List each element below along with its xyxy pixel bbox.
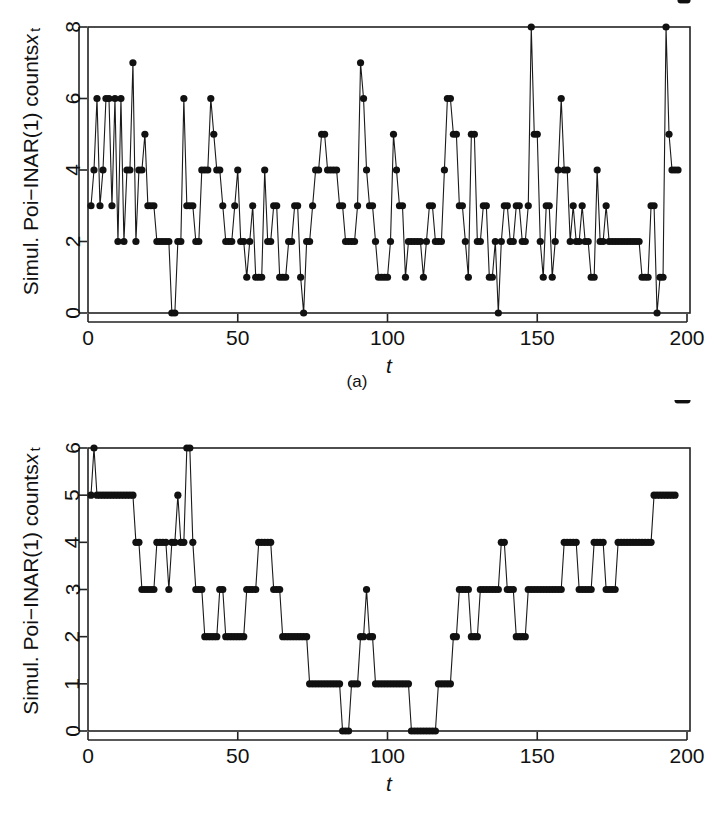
data-point (276, 586, 283, 593)
data-point (579, 202, 586, 209)
data-point (258, 274, 265, 281)
y-axis-title-text: Simul. Poi−INAR(1) counts (19, 464, 42, 714)
data-point (588, 586, 595, 593)
x-tick-label-0: 0 (82, 744, 94, 767)
x-tick-label-150: 150 (520, 326, 555, 349)
chart-panel-a: 02468050100150200tSimul. Poi−INAR(1) cou… (0, 0, 714, 400)
data-point (150, 586, 157, 593)
data-point (141, 131, 148, 138)
data-point (345, 727, 352, 734)
data-point (219, 586, 226, 593)
data-point (441, 166, 448, 173)
data-point (384, 274, 391, 281)
data-point (186, 444, 193, 451)
data-point (90, 166, 97, 173)
y-axis-title-var: x (19, 452, 42, 465)
data-point (558, 95, 565, 102)
data-point (399, 202, 406, 209)
data-point (246, 238, 253, 245)
data-point (459, 202, 466, 209)
data-point (336, 680, 343, 687)
data-point (198, 586, 205, 593)
data-point (120, 238, 127, 245)
data-point (165, 238, 172, 245)
data-point (180, 95, 187, 102)
data-point (129, 59, 136, 66)
data-point (549, 274, 556, 281)
data-point (552, 238, 559, 245)
data-point (489, 274, 496, 281)
data-point (228, 238, 235, 245)
y-tick-label-0: 0 (61, 725, 84, 737)
data-point (432, 727, 439, 734)
data-point (420, 274, 427, 281)
x-tick-label-150: 150 (520, 744, 555, 767)
data-point (129, 492, 136, 499)
data-point (603, 202, 610, 209)
data-point (528, 23, 535, 30)
data-point (204, 166, 211, 173)
data-point (207, 95, 214, 102)
data-point (372, 238, 379, 245)
data-point (165, 586, 172, 593)
x-tick-label-50: 50 (226, 744, 249, 767)
data-point (674, 166, 681, 173)
y-tick-label-2: 2 (61, 631, 84, 643)
data-point (189, 202, 196, 209)
data-point (644, 274, 651, 281)
data-point (96, 202, 103, 209)
data-point (138, 166, 145, 173)
data-point (354, 680, 361, 687)
chart-a-canvas: 02468050100150200tSimul. Poi−INAR(1) cou… (0, 0, 714, 400)
data-point (267, 238, 274, 245)
data-point (210, 131, 217, 138)
data-point (504, 202, 511, 209)
y-tick-label-4: 4 (61, 536, 84, 548)
data-point (447, 680, 454, 687)
data-point (546, 202, 553, 209)
data-point (564, 166, 571, 173)
data-point (423, 238, 430, 245)
data-point (231, 202, 238, 209)
data-point (321, 131, 328, 138)
x-tick-label-200: 200 (669, 744, 704, 767)
data-point (339, 202, 346, 209)
y-tick-label-2: 2 (61, 236, 84, 248)
data-point (252, 586, 259, 593)
data-point (273, 202, 280, 209)
data-point (126, 166, 133, 173)
data-point (495, 309, 502, 316)
y-tick-label-8: 8 (61, 21, 84, 33)
data-point (429, 202, 436, 209)
data-point (650, 202, 657, 209)
data-point (390, 131, 397, 138)
data-point (240, 633, 247, 640)
data-point (177, 238, 184, 245)
data-point (594, 166, 601, 173)
data-point (612, 586, 619, 593)
data-point (117, 95, 124, 102)
data-point (653, 309, 660, 316)
data-point (135, 539, 142, 546)
data-point (213, 633, 220, 640)
data-point (405, 680, 412, 687)
y-tick-label-3: 3 (61, 584, 84, 596)
y-tick-label-6: 6 (61, 442, 84, 454)
series-line (91, 27, 678, 313)
plot-frame (88, 448, 690, 731)
data-point (354, 202, 361, 209)
series-points (87, 400, 690, 735)
figure-container: 02468050100150200tSimul. Poi−INAR(1) cou… (0, 0, 714, 829)
data-point (534, 131, 541, 138)
data-point (174, 492, 181, 499)
y-tick-label-4: 4 (61, 164, 84, 176)
x-tick-label-0: 0 (82, 326, 94, 349)
data-point (585, 238, 592, 245)
data-point (671, 492, 678, 499)
data-point (522, 238, 529, 245)
y-axis-title-var: x (19, 33, 42, 46)
data-point (87, 202, 94, 209)
chart-panel-b: 0123456050100150200tSimul. Poi−INAR(1) c… (0, 400, 714, 829)
data-point (171, 309, 178, 316)
data-point (453, 131, 460, 138)
